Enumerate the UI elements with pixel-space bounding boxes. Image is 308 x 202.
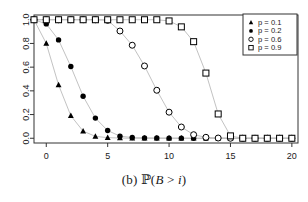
series-markers-p-0-6 [142, 63, 148, 69]
series-markers-p-0-9 [178, 24, 184, 30]
caption-index: (b) [122, 172, 138, 187]
series-markers-p-0-9 [252, 135, 258, 141]
open-square-icon [249, 46, 253, 50]
series-markers-p-0-9 [277, 135, 283, 141]
series-markers-p-0-1 [43, 40, 49, 46]
y-axis-tick-label: 0.4 [21, 85, 31, 98]
series-markers-p-0-9 [289, 135, 295, 141]
series-markers-p-0-6 [166, 109, 172, 115]
x-axis-tick-label: 5 [105, 151, 110, 161]
series-markers-p-0-9 [105, 17, 111, 23]
series-markers-p-0-9 [31, 17, 37, 23]
series-markers-p-0-1 [56, 82, 62, 88]
series-markers-p-0-2 [154, 135, 159, 140]
series-markers-p-0-9 [166, 18, 172, 24]
series-markers-p-0-9 [117, 17, 123, 23]
series-markers-p-0-2 [56, 37, 61, 42]
series-markers-p-0-9 [43, 17, 49, 23]
figure-panel: 051015200.00.20.40.60.81.0p = 0.1p = 0.2… [0, 0, 308, 202]
series-markers-p-0-9 [80, 17, 86, 23]
series-markers-p-0-6 [154, 87, 160, 93]
series-markers-p-0-9 [92, 17, 98, 23]
series-markers-p-0-9 [240, 135, 246, 141]
series-markers-p-0-9 [191, 39, 197, 45]
series-markers-p-0-1 [68, 113, 74, 119]
series-markers-p-0-9 [154, 17, 160, 23]
y-axis-tick-label: 0.2 [21, 108, 31, 121]
y-axis-tick-label: 0.0 [21, 132, 31, 145]
legend-entry-label: p = 0.9 [258, 43, 281, 52]
series-markers-p-0-9 [129, 17, 135, 23]
series-markers-p-0-6 [129, 42, 135, 48]
series-markers-p-0-6 [215, 135, 221, 141]
series-markers-p-0-2 [166, 135, 171, 140]
figure-caption: (b) ℙ(B > i) [0, 172, 308, 188]
y-axis-tick-label: 0.8 [21, 37, 31, 50]
x-axis-tick-label: 0 [44, 151, 49, 161]
series-markers-p-0-2 [117, 133, 122, 138]
caption-probability-symbol: ℙ [141, 172, 151, 187]
open-circle-icon [249, 37, 253, 41]
series-markers-p-0-9 [56, 17, 62, 23]
series-markers-p-0-6 [191, 132, 197, 138]
series-markers-p-0-2 [68, 64, 73, 69]
series-markers-p-0-9 [215, 111, 221, 117]
x-axis-tick-label: 20 [287, 151, 297, 161]
caption-relation: > [164, 172, 178, 187]
x-axis-tick-label: 10 [164, 151, 174, 161]
series-markers-p-0-9 [68, 17, 74, 23]
y-axis-tick-label: 1.0 [21, 13, 31, 26]
series-markers-p-0-2 [80, 93, 85, 98]
series-markers-p-0-9 [264, 135, 270, 141]
series-markers-p-0-2 [130, 135, 135, 140]
series-markers-p-0-2 [93, 115, 98, 120]
caption-close-paren: ) [182, 172, 187, 187]
caption-variable-b: B [155, 172, 163, 187]
y-axis-tick-label: 0.6 [21, 61, 31, 74]
series-markers-p-0-2 [105, 128, 110, 133]
series-markers-p-0-9 [142, 17, 148, 23]
series-markers-p-0-6 [117, 28, 123, 34]
series-markers-p-0-2 [142, 135, 147, 140]
series-markers-p-0-9 [227, 133, 233, 139]
series-markers-p-0-9 [203, 70, 209, 76]
series-markers-p-0-6 [178, 124, 184, 130]
series-markers-p-0-2 [179, 135, 184, 140]
x-axis-tick-label: 15 [225, 151, 235, 161]
filled-circle-icon [249, 29, 253, 33]
series-markers-p-0-6 [203, 134, 209, 140]
